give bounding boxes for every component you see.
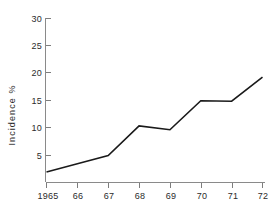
line-chart-figure: Incidence % 30 25 20 15 10 5: [0, 0, 280, 217]
x-tick-label-66: 66: [73, 191, 83, 201]
x-tick-label-71: 71: [228, 191, 238, 201]
y-tick-label-15: 15: [32, 96, 42, 106]
y-tick-label-25: 25: [32, 41, 42, 51]
y-axis-title: Incidence %: [7, 84, 17, 145]
y-tick-label-30: 30: [32, 14, 42, 24]
x-tick-label-70: 70: [197, 191, 207, 201]
x-tick-label-1965: 1965: [38, 191, 59, 201]
y-tick-label-5: 5: [37, 151, 42, 161]
y-axis-ticks: [46, 19, 52, 156]
x-tick-label-69: 69: [166, 191, 176, 201]
x-tick-label-67: 67: [104, 191, 114, 201]
chart-canvas: Incidence % 30 25 20 15 10 5: [0, 0, 280, 217]
y-axis-tick-labels: 30 25 20 15 10 5: [32, 14, 42, 161]
y-tick-label-20: 20: [32, 68, 42, 78]
x-tick-label-68: 68: [135, 191, 145, 201]
x-axis-tick-labels: 1965 66 67 68 69 70 71 72: [38, 191, 269, 201]
x-axis-ticks: [47, 183, 263, 189]
y-tick-label-10: 10: [32, 123, 42, 133]
incidence-line-series: [47, 77, 263, 172]
x-tick-label-72: 72: [258, 191, 268, 201]
